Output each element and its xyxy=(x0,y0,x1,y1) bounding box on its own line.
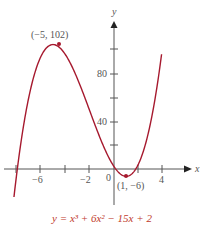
y-tick-label-40: 40 xyxy=(97,116,107,127)
x-tick-label-0: 0 xyxy=(106,172,111,183)
local-max-point xyxy=(57,42,61,46)
local-min-point xyxy=(124,174,128,178)
cubic-function-graph: x y −6 −2 0 4 80 40 (−5, 102) (1, −6) y … xyxy=(0,0,204,229)
x-axis-label: x xyxy=(194,163,200,174)
x-tick-label-neg6: −6 xyxy=(32,174,43,185)
equation-caption: y = x³ + 6x² − 15x + 2 xyxy=(51,212,152,224)
y-axis-arrow-icon xyxy=(111,21,118,28)
local-max-label: (−5, 102) xyxy=(31,29,68,41)
local-min-label: (1, −6) xyxy=(117,180,144,192)
x-tick-label-4: 4 xyxy=(159,174,164,185)
x-axis-arrow-icon xyxy=(184,166,192,173)
y-axis-label: y xyxy=(111,6,117,17)
y-tick-label-80: 80 xyxy=(97,68,107,79)
x-tick-label-neg2: −2 xyxy=(80,174,91,185)
